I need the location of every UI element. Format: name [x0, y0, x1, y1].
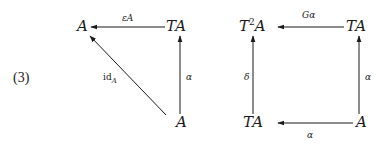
triangle-object-top-right: TA: [166, 17, 186, 35]
label-delta: δ: [244, 72, 249, 82]
square-object-top-right: TA: [346, 17, 366, 35]
commutative-diagrams: (3) A TA A εA idA α T2A TA TA A Gα δ α α: [0, 0, 381, 145]
triangle-object-top-left: A: [75, 17, 88, 35]
square-object-bottom-right: A: [354, 113, 367, 131]
arrow-identity: [90, 36, 166, 115]
equation-number: (3): [13, 70, 30, 86]
label-alpha-triangle: α: [186, 72, 192, 82]
square-object-top-left: T2A: [239, 17, 266, 35]
t-squared-object: A: [253, 17, 266, 35]
label-identity-base: id: [103, 72, 112, 82]
label-identity: idA: [103, 72, 117, 85]
label-g-alpha: Gα: [302, 10, 315, 20]
label-identity-subscript: A: [111, 77, 117, 85]
label-alpha-bottom: α: [307, 130, 313, 140]
square-object-bottom-left: TA: [243, 113, 263, 131]
triangle-object-bottom-right: A: [174, 113, 187, 131]
triangle-diagram: A TA A εA idA α: [75, 13, 192, 131]
square-diagram: T2A TA TA A Gα δ α α: [239, 10, 371, 140]
label-alpha-right: α: [365, 72, 371, 82]
label-epsilon-a: εA: [122, 13, 134, 23]
